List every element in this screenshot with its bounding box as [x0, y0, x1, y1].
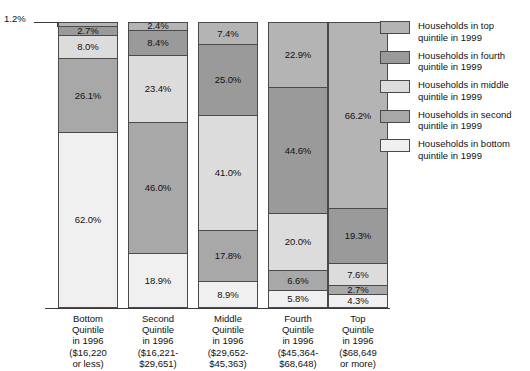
legend-label-line: quintile in 1999	[418, 120, 511, 132]
bar-segment[interactable]: 2.7%	[58, 26, 118, 35]
bar-second-quintile[interactable]: 2.4%8.4%23.4%46.0%18.9%	[128, 22, 188, 308]
bar-segment[interactable]: 46.0%	[128, 122, 188, 253]
plot-area: 1.2% 1.2%2.7%8.0%26.1%62.0%2.4%8.4%23.4%…	[0, 0, 400, 371]
legend-label: Households in secondquintile in 1999	[418, 109, 511, 132]
bar-bottom-quintile[interactable]: 1.2%2.7%8.0%26.1%62.0%	[58, 22, 118, 308]
segment-value-label: 20.0%	[285, 237, 311, 247]
legend-label: Households in topquintile in 1999	[418, 20, 494, 43]
bar-segment[interactable]: 18.9%	[128, 253, 188, 308]
bar-segment[interactable]: 23.4%	[128, 55, 188, 122]
x-axis-line	[45, 308, 390, 309]
legend-label: Households in middlequintile in 1999	[418, 79, 509, 102]
category-label-line: $45,363)	[190, 358, 266, 369]
legend-label-line: quintile in 1999	[418, 61, 505, 73]
category-label-second-quintile: SecondQuintilein 1996($16,221-$29,651)	[120, 313, 196, 369]
bar-segment[interactable]: 7.6%	[328, 263, 388, 285]
bar-segment[interactable]: 66.2%	[328, 22, 388, 208]
segment-value-label: 23.4%	[145, 84, 171, 94]
segment-value-label: 2.7%	[77, 26, 98, 35]
category-label-line: Quintile	[320, 324, 396, 335]
segment-value-label: 4.3%	[347, 296, 368, 306]
segment-value-label: 7.6%	[347, 270, 368, 280]
segment-value-label: 8.9%	[217, 290, 238, 300]
segment-value-label: 7.4%	[217, 29, 238, 39]
bar-fourth-quintile[interactable]: 22.9%44.6%20.0%6.6%5.8%	[268, 22, 328, 308]
legend-label-line: Households in second	[418, 109, 511, 121]
legend-label: Households in fourthquintile in 1999	[418, 50, 505, 73]
legend-swatch	[380, 51, 410, 64]
bar-segment[interactable]: 41.0%	[198, 115, 258, 231]
segment-value-label: 46.0%	[145, 183, 171, 193]
callout-leader-line	[34, 22, 58, 23]
legend-swatch	[380, 80, 410, 93]
segment-value-label: 2.7%	[347, 285, 368, 294]
chart-legend: Households in topquintile in 1999Househo…	[380, 20, 530, 168]
category-label-line: in 1996	[50, 335, 126, 346]
stacked-bar-chart: 1.2% 1.2%2.7%8.0%26.1%62.0%2.4%8.4%23.4%…	[0, 0, 530, 371]
bar-segment[interactable]: 6.6%	[268, 270, 328, 290]
category-label-line: $29,651)	[120, 358, 196, 369]
bar-segment[interactable]: 2.7%	[328, 285, 388, 294]
segment-value-label: 19.3%	[345, 231, 371, 241]
category-label-line: or more)	[320, 358, 396, 369]
legend-item[interactable]: Households in bottomquintile in 1999	[380, 138, 530, 161]
bar-top-quintile[interactable]: 66.2%19.3%7.6%2.7%4.3%	[328, 22, 388, 308]
category-label-line: ($29,652-	[190, 347, 266, 358]
legend-swatch	[380, 21, 410, 34]
legend-label-line: quintile in 1999	[418, 150, 510, 162]
segment-value-label: 6.6%	[287, 276, 308, 286]
category-label-line: Bottom	[50, 313, 126, 324]
legend-swatch	[380, 139, 410, 152]
bar-segment[interactable]: 8.4%	[128, 30, 188, 55]
legend-item[interactable]: Households in fourthquintile in 1999	[380, 50, 530, 73]
bar-middle-quintile[interactable]: 7.4%25.0%41.0%17.8%8.9%	[198, 22, 258, 308]
legend-item[interactable]: Households in secondquintile in 1999	[380, 109, 530, 132]
bar-segment[interactable]: 7.4%	[198, 22, 258, 44]
legend-item[interactable]: Households in topquintile in 1999	[380, 20, 530, 43]
category-label-line: Middle	[190, 313, 266, 324]
bar-segment[interactable]: 19.3%	[328, 208, 388, 263]
category-label-top-quintile: TopQuintilein 1996($68,649or more)	[320, 313, 396, 369]
bar-segment[interactable]: 22.9%	[268, 22, 328, 87]
segment-value-label: 44.6%	[285, 146, 311, 156]
legend-label-line: Households in top	[418, 20, 494, 32]
legend-label-line: Households in fourth	[418, 50, 505, 62]
category-label-line: in 1996	[120, 335, 196, 346]
segment-value-label: 8.0%	[77, 42, 98, 52]
segment-value-label: 18.9%	[145, 276, 171, 286]
category-label-line: in 1996	[320, 335, 396, 346]
segment-value-label: 41.0%	[215, 168, 241, 178]
bar-segment[interactable]: 20.0%	[268, 213, 328, 270]
bar-segment[interactable]: 8.0%	[58, 35, 118, 58]
bar-segment[interactable]: 4.3%	[328, 294, 388, 308]
bar-segment[interactable]: 44.6%	[268, 87, 328, 213]
bar-segment[interactable]: 8.9%	[198, 281, 258, 308]
bar-segment[interactable]: 25.0%	[198, 44, 258, 115]
legend-swatch	[380, 110, 410, 123]
legend-item[interactable]: Households in middlequintile in 1999	[380, 79, 530, 102]
segment-value-label: 17.8%	[215, 251, 241, 261]
segment-value-label: 26.1%	[75, 91, 101, 101]
category-label-line: Second	[120, 313, 196, 324]
bar-segment[interactable]: 5.8%	[268, 290, 328, 308]
category-label-line: ($16,221-	[120, 347, 196, 358]
category-label-line: ($16,220	[50, 347, 126, 358]
segment-value-label: 2.4%	[147, 22, 168, 30]
segment-value-label: 22.9%	[285, 50, 311, 60]
segment-value-label: 62.0%	[75, 215, 101, 225]
legend-label-line: quintile in 1999	[418, 91, 509, 103]
category-label-line: ($68,649	[320, 347, 396, 358]
legend-label: Households in bottomquintile in 1999	[418, 138, 510, 161]
segment-value-label: 5.8%	[287, 294, 308, 304]
category-label-bottom-quintile: BottomQuintilein 1996($16,220or less)	[50, 313, 126, 369]
bar-segment[interactable]: 17.8%	[198, 230, 258, 281]
segment-value-label: 66.2%	[345, 111, 371, 121]
segment-value-label: 25.0%	[215, 75, 241, 85]
bar-segment[interactable]: 2.4%	[128, 22, 188, 30]
bar-segment[interactable]: 62.0%	[58, 132, 118, 308]
legend-label-line: Households in middle	[418, 79, 509, 91]
bar-segment[interactable]: 26.1%	[58, 58, 118, 132]
category-label-line: or less)	[50, 358, 126, 369]
segment-value-label: 8.4%	[147, 38, 168, 48]
category-label-middle-quintile: MiddleQuintilein 1996($29,652-$45,363)	[190, 313, 266, 369]
